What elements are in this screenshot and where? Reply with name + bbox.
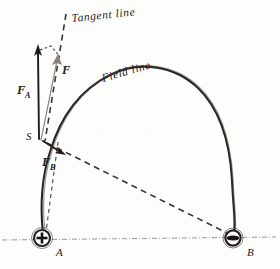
field-line-shadow (44, 66, 236, 232)
figure-canvas: Tangent line Field line S A B F F A F B (0, 0, 280, 269)
force-a-label: F A (16, 83, 31, 100)
force-b-label-subscript: B (49, 163, 56, 172)
force-a-label-subscript: A (24, 91, 31, 100)
charge-b[interactable] (223, 228, 243, 248)
field-line-diagram: Tangent line Field line S A B F F A F B (0, 0, 280, 269)
force-resultant-label: F (61, 63, 71, 77)
force-a-vector (34, 44, 42, 139)
tangent-line-label: Tangent line (71, 5, 136, 25)
charge-a[interactable] (32, 228, 53, 249)
point-s-label: S (26, 130, 32, 142)
force-parallelogram-connector (40, 46, 60, 57)
field-line-label: Field line (99, 58, 152, 84)
field-line-curve (42, 67, 235, 234)
dashed-line-s-to-b (47, 143, 229, 234)
force-b-label: F B (41, 155, 56, 172)
charge-b-label: B (247, 246, 254, 258)
charge-a-label: A (55, 246, 63, 258)
